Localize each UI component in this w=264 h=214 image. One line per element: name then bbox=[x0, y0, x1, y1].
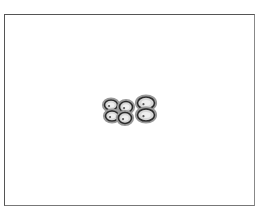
bacterial-cell bbox=[117, 111, 133, 125]
bacterial-cell bbox=[136, 107, 156, 122]
bacteria-cluster bbox=[0, 0, 264, 214]
